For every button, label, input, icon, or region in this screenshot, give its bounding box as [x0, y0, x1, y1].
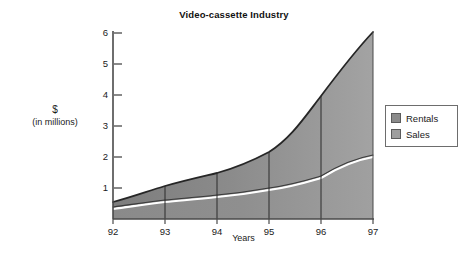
legend-label-sales: Sales [406, 129, 430, 140]
chart-legend: Rentals Sales [385, 105, 458, 147]
y-tick-label-5: 5 [94, 58, 108, 69]
legend-label-rentals: Rentals [406, 113, 438, 124]
legend-swatch-rentals-icon [391, 113, 401, 123]
x-axis-title: Years [113, 233, 374, 243]
y-tick-label-4: 4 [94, 89, 108, 100]
chart-container: Video-cassette Industry $ (in millions) [0, 0, 468, 253]
legend-item-sales[interactable]: Sales [391, 126, 452, 142]
y-tick-label-6: 6 [94, 27, 108, 38]
legend-swatch-sales-icon [391, 129, 401, 139]
y-tick-label-2: 2 [94, 151, 108, 162]
y-tick-label-3: 3 [94, 120, 108, 131]
legend-item-rentals[interactable]: Rentals [391, 110, 452, 126]
y-tick-label-1: 1 [94, 182, 108, 193]
